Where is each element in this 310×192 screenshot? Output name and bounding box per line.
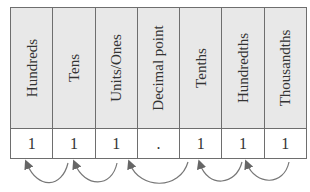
- header-tens: Tens: [53, 8, 95, 128]
- header-label: Units/Ones: [108, 34, 125, 102]
- header-label: Hundreds: [23, 39, 40, 97]
- header-hundreds: Hundreds: [11, 8, 53, 128]
- header-decimal-point: Decimal point: [138, 8, 180, 128]
- arrow-hundredths-to-tenths-icon: [200, 162, 242, 181]
- arrow-tens-to-hundreds-icon: [27, 163, 68, 183]
- arrow-tenths-to-units-icon: [130, 162, 188, 183]
- arrow-units-to-tens-icon: [75, 163, 117, 182]
- header-hundredths: Hundredths: [222, 8, 264, 128]
- arrows-diagram: [0, 150, 310, 192]
- header-label: Thousandths: [277, 30, 294, 107]
- header-label: Hundredths: [235, 33, 252, 103]
- header-thousandths: Thousandths: [265, 8, 306, 128]
- header-tenths: Tenths: [180, 8, 222, 128]
- header-label: Tens: [65, 54, 82, 82]
- place-value-table: Hundreds Tens Units/Ones Decimal point T…: [10, 7, 307, 159]
- header-label: Decimal point: [150, 25, 167, 110]
- header-label: Tenths: [192, 48, 209, 88]
- header-row: Hundreds Tens Units/Ones Decimal point T…: [11, 8, 306, 129]
- header-units: Units/Ones: [96, 8, 138, 128]
- arrow-thousandths-to-hundredths-icon: [247, 162, 289, 180]
